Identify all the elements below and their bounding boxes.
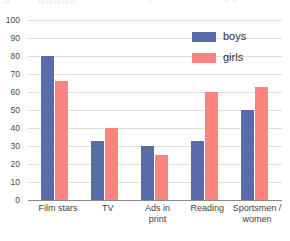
artifact-glyph-3: ▫: [150, 0, 152, 5]
bar-boys: [191, 141, 204, 200]
y-axis-tick-label: 40: [0, 124, 20, 133]
artifact-glyph-2: ▭▭▭▭▭: [38, 0, 78, 5]
y-axis-tick-label: 50: [0, 106, 20, 115]
y-axis-tick-label: 80: [0, 52, 20, 61]
bar-group: [41, 20, 68, 200]
legend-label: girls: [223, 52, 243, 63]
y-axis-tick-label: 60: [0, 88, 20, 97]
y-axis-tick-label: 10: [0, 178, 20, 187]
top-scan-artifact: ⊡ ▭▭▭▭▭ ▫ ⌐ ⌐: [0, 0, 290, 13]
artifact-glyph-1: ⊡: [4, 0, 10, 5]
bar-girls: [105, 128, 118, 200]
bar-chart: ⊡ ▭▭▭▭▭ ▫ ⌐ ⌐ 0102030405060708090100 Fil…: [0, 0, 290, 241]
bar-girls: [255, 87, 268, 200]
y-axis-tick-label: 70: [0, 70, 20, 79]
bar-boys: [91, 141, 104, 200]
y-axis-tick-label: 20: [0, 160, 20, 169]
y-axis-tickmark: [28, 128, 33, 129]
y-axis-tick-label: 90: [0, 34, 20, 43]
legend-item-girls[interactable]: girls: [192, 49, 284, 66]
x-axis-category-label: Sportsmen / women: [222, 203, 290, 225]
y-axis-tickmark: [28, 38, 33, 39]
y-axis-tickmark: [28, 146, 33, 147]
y-axis-tickmark: [28, 164, 33, 165]
legend-label: boys: [223, 31, 246, 42]
artifact-glyph-4: ⌐ ⌐: [225, 0, 238, 5]
y-axis-tick-label: 0: [0, 196, 20, 205]
bar-boys: [241, 110, 254, 200]
y-axis-tickmark: [28, 56, 33, 57]
y-axis-tickmark: [28, 182, 33, 183]
bar-boys: [141, 146, 154, 200]
y-axis-tickmark: [28, 110, 33, 111]
x-axis-labels: Film starsTVAds in printReadingSportsmen…: [33, 203, 282, 241]
y-axis-tickmark: [28, 20, 33, 21]
legend-swatch-icon: [192, 53, 216, 63]
legend-swatch-icon: [192, 32, 216, 42]
bar-girls: [205, 92, 218, 200]
y-axis-tickmark: [28, 74, 33, 75]
y-axis-tick-label: 100: [0, 16, 20, 25]
chart-legend: boysgirls: [192, 28, 284, 70]
legend-item-boys[interactable]: boys: [192, 28, 284, 45]
x-axis-line: [33, 200, 282, 201]
bar-girls: [55, 81, 68, 200]
bar-group: [141, 20, 168, 200]
bar-girls: [155, 155, 168, 200]
y-axis-tickmark: [28, 200, 33, 201]
bar-group: [91, 20, 118, 200]
y-axis-tickmark: [28, 92, 33, 93]
bar-boys: [41, 56, 54, 200]
y-axis-tick-label: 30: [0, 142, 20, 151]
